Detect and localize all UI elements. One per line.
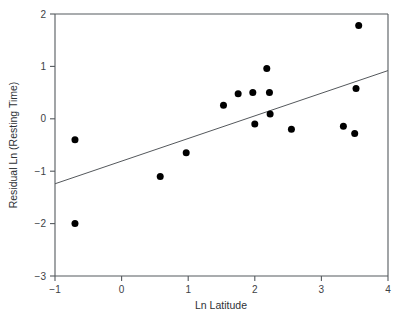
data-point: [71, 136, 78, 143]
y-tick-label: 2: [40, 9, 46, 20]
data-point: [220, 102, 227, 109]
data-point: [266, 89, 273, 96]
y-tick-label: 0: [40, 113, 46, 124]
data-point: [353, 85, 360, 92]
data-point: [267, 111, 274, 118]
data-point: [235, 90, 242, 97]
x-tick-label: 2: [252, 284, 258, 295]
scatter-plot-figure: −3−2−1012 −101234 Ln Latitude Residual L…: [0, 0, 407, 320]
data-point: [351, 130, 358, 137]
y-axis-label: Residual Ln (Resting Time): [7, 82, 19, 209]
y-tick-label: −3: [35, 271, 47, 282]
data-point: [340, 123, 347, 130]
data-point: [355, 22, 362, 29]
x-tick-label: 0: [119, 284, 125, 295]
y-tick-label: −1: [35, 166, 47, 177]
data-point: [183, 149, 190, 156]
plot-background: [0, 0, 407, 320]
x-axis-label: Ln Latitude: [195, 299, 247, 311]
data-point: [288, 126, 295, 133]
y-tick-label: 1: [40, 61, 46, 72]
x-tick-label: −1: [49, 284, 61, 295]
data-point: [249, 89, 256, 96]
y-tick-label: −2: [35, 218, 47, 229]
x-tick-label: 1: [185, 284, 191, 295]
data-point: [263, 65, 270, 72]
x-tick-label: 3: [319, 284, 325, 295]
data-point: [157, 173, 164, 180]
data-point: [71, 220, 78, 227]
x-tick-label: 4: [385, 284, 391, 295]
data-point: [251, 121, 258, 128]
